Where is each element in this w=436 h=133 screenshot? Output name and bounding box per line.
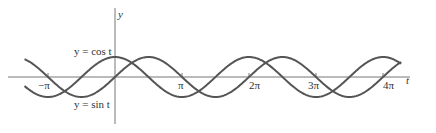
tick-label-3pi: 3π: [308, 79, 320, 91]
t-axis-label: t: [406, 74, 410, 86]
tick-label-2pi: 2π: [249, 79, 261, 91]
sin-label: y = sin t: [74, 98, 110, 110]
tick-label-4pi: 4π: [383, 79, 395, 91]
chart: y t y = cos t y = sin t −π π 2π 3π 4π: [0, 0, 436, 133]
tick-label-pi: π: [178, 79, 184, 91]
cos-label: y = cos t: [74, 45, 112, 57]
tick-label-neg-pi: −π: [38, 79, 50, 91]
y-axis-label: y: [117, 8, 123, 20]
